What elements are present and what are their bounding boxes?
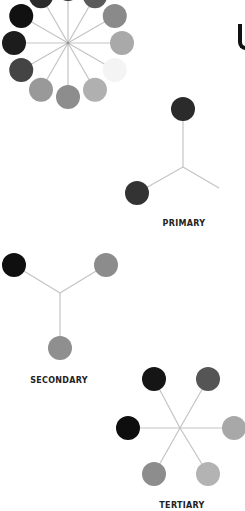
spoke-line: [183, 167, 219, 188]
color-swatch: [2, 253, 26, 277]
color-swatch: [2, 31, 26, 55]
color-diagrams-canvas: [0, 0, 245, 511]
tertiary-label: TERTIARY: [159, 501, 204, 510]
color-swatch: [171, 97, 195, 121]
color-swatch: [125, 181, 149, 205]
color-swatch: [116, 416, 140, 440]
primary-colors-diagram: [125, 97, 219, 205]
cropped-heading-glyph: [238, 24, 245, 50]
color-swatch: [83, 0, 107, 8]
color-swatch: [94, 253, 118, 277]
color-wheel: [2, 0, 134, 109]
color-swatch: [29, 78, 53, 102]
color-swatch: [103, 4, 127, 28]
secondary-label: SECONDARY: [30, 376, 88, 385]
color-swatch: [222, 416, 245, 440]
hub-dot: [67, 42, 70, 45]
primary-label: PRIMARY: [163, 219, 206, 228]
color-swatch: [9, 58, 33, 82]
color-swatch: [9, 4, 33, 28]
color-swatch: [29, 0, 53, 8]
color-swatch: [142, 367, 166, 391]
tertiary-colors-diagram: [116, 367, 245, 486]
color-swatch: [196, 462, 220, 486]
color-swatch: [83, 78, 107, 102]
color-swatch: [48, 336, 72, 360]
color-swatch: [56, 85, 80, 109]
secondary-colors-diagram: [2, 253, 118, 360]
color-swatch: [103, 58, 127, 82]
color-swatch: [196, 367, 220, 391]
color-swatch: [110, 31, 134, 55]
color-swatch: [142, 462, 166, 486]
color-swatch: [56, 0, 80, 1]
